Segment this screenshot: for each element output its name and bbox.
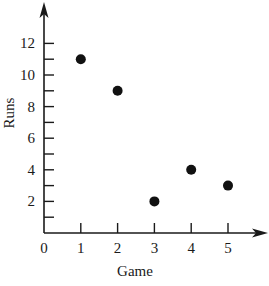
y-tick-label: 4 bbox=[28, 162, 36, 178]
y-tick-label: 12 bbox=[20, 35, 35, 51]
x-tick-label: 1 bbox=[77, 240, 85, 256]
data-point bbox=[223, 181, 233, 191]
y-axis-label: Runs bbox=[1, 97, 17, 128]
data-point bbox=[186, 165, 196, 175]
y-tick-label: 2 bbox=[28, 193, 36, 209]
x-axis-label: Game bbox=[117, 263, 153, 279]
x-tick-label: 3 bbox=[151, 240, 159, 256]
x-tick-label: 2 bbox=[114, 240, 122, 256]
x-tick-label: 0 bbox=[40, 240, 48, 256]
y-tick-label: 8 bbox=[28, 99, 36, 115]
x-tick-label: 5 bbox=[224, 240, 232, 256]
y-tick-label: 6 bbox=[28, 130, 36, 146]
data-point bbox=[76, 54, 86, 64]
x-tick-label: 4 bbox=[187, 240, 195, 256]
data-point bbox=[149, 196, 159, 206]
y-axis-ticks: 24681012 bbox=[20, 35, 54, 217]
data-points bbox=[76, 54, 233, 206]
scatter-chart: 24681012 012345 Game Runs bbox=[0, 0, 269, 286]
data-point bbox=[113, 86, 123, 96]
y-tick-label: 10 bbox=[20, 67, 35, 83]
x-axis-ticks: 012345 bbox=[40, 223, 232, 256]
